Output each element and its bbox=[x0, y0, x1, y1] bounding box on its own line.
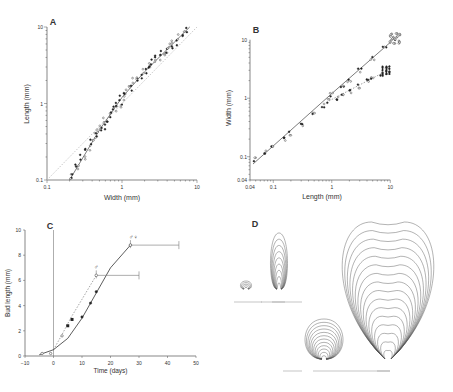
data-point bbox=[314, 112, 316, 114]
open-point bbox=[61, 335, 63, 337]
y-tick-label: 1 bbox=[244, 95, 247, 101]
male-curve bbox=[54, 275, 97, 349]
data-point bbox=[104, 124, 106, 126]
data-point bbox=[142, 68, 144, 70]
x-tick-label: 10 bbox=[79, 360, 85, 366]
data-point bbox=[182, 34, 184, 36]
data-point bbox=[323, 106, 325, 108]
open-point bbox=[95, 291, 97, 293]
x-tick-label: 30 bbox=[136, 360, 142, 366]
data-point bbox=[290, 134, 292, 136]
data-point bbox=[99, 125, 101, 127]
cluster-point bbox=[382, 67, 384, 69]
panel-d: D bbox=[234, 219, 434, 371]
data-point bbox=[272, 145, 274, 147]
data-point bbox=[132, 82, 134, 84]
y-tick-label: 10 bbox=[241, 37, 247, 43]
data-point bbox=[115, 102, 117, 104]
data-point bbox=[312, 113, 314, 115]
sex-annotation: ♂ bbox=[94, 264, 99, 270]
data-point bbox=[95, 137, 97, 139]
y-tick-label: 8 bbox=[18, 252, 21, 258]
data-point bbox=[148, 65, 150, 67]
data-point bbox=[337, 96, 339, 98]
data-point bbox=[136, 78, 138, 80]
x-tick-label: 10 bbox=[194, 184, 200, 190]
large-front-contour bbox=[358, 273, 418, 359]
data-point bbox=[185, 27, 187, 29]
x-tick-label: 20 bbox=[108, 360, 114, 366]
data-point bbox=[90, 143, 92, 145]
y-axis-label: Bud length (mm) bbox=[4, 269, 12, 317]
cluster-point bbox=[386, 69, 388, 71]
x-tick-label: 0.1 bbox=[44, 184, 51, 190]
panel-b: 0.040.11100.040.1110Length (mm)Width (mm… bbox=[225, 25, 401, 201]
cluster-point bbox=[393, 42, 395, 44]
x-tick-label: 40 bbox=[165, 360, 171, 366]
data-point bbox=[119, 95, 121, 97]
data-point bbox=[143, 72, 145, 74]
small-side-contour bbox=[244, 287, 248, 289]
data-point bbox=[154, 61, 156, 63]
cluster-point bbox=[388, 73, 390, 75]
x-tick-label: 10 bbox=[387, 184, 393, 190]
x-axis-label: Time (days) bbox=[93, 367, 127, 375]
panel-c: −10010203040500246810Time (days)Bud leng… bbox=[4, 221, 199, 375]
data-point bbox=[382, 46, 384, 48]
data-point bbox=[359, 71, 361, 73]
x-tick-label: 0.1 bbox=[270, 184, 277, 190]
data-point bbox=[159, 59, 161, 61]
small-side-contour bbox=[240, 281, 251, 289]
data-point bbox=[80, 159, 82, 161]
data-point bbox=[102, 117, 104, 119]
data-point bbox=[89, 149, 91, 151]
data-point bbox=[288, 131, 290, 133]
data-point bbox=[329, 92, 331, 94]
y-tick-label: 1 bbox=[40, 101, 43, 107]
large-front-contour bbox=[372, 316, 405, 359]
data-point bbox=[113, 106, 115, 108]
y-tick-label: 4 bbox=[18, 303, 21, 309]
cluster-point bbox=[394, 39, 396, 41]
data-point bbox=[84, 158, 86, 160]
data-point bbox=[74, 164, 76, 166]
data-point bbox=[107, 121, 109, 123]
large-front-contour bbox=[369, 308, 407, 359]
endpoint bbox=[95, 274, 98, 277]
data-point bbox=[75, 166, 77, 168]
y-tick-label: 6 bbox=[18, 277, 21, 283]
data-point bbox=[115, 110, 117, 112]
data-point bbox=[350, 92, 352, 94]
y-axis-label: Width (mm) bbox=[225, 90, 233, 126]
data-point bbox=[366, 79, 368, 81]
data-point bbox=[103, 121, 105, 123]
data-point bbox=[342, 85, 344, 87]
data-point bbox=[264, 153, 266, 155]
data-point bbox=[99, 128, 101, 130]
data-point bbox=[165, 52, 167, 54]
x-tick-label: 1 bbox=[330, 184, 333, 190]
figure-canvas: 0.11100.1110Width (mm)Length (mm)A 0.040… bbox=[0, 0, 453, 392]
data-point bbox=[370, 78, 372, 80]
y-axis-label: Length (mm) bbox=[23, 84, 31, 124]
data-point bbox=[148, 63, 150, 65]
data-point bbox=[115, 105, 117, 107]
small-front-contour bbox=[277, 283, 281, 289]
large-front-contour bbox=[366, 299, 410, 359]
data-point bbox=[93, 139, 95, 141]
data-point bbox=[368, 81, 370, 83]
data-point bbox=[141, 77, 143, 79]
filled-point bbox=[71, 318, 74, 321]
data-point bbox=[154, 55, 156, 57]
cluster-point bbox=[397, 35, 399, 37]
y-tick-label: 0.1 bbox=[36, 177, 43, 183]
data-point bbox=[125, 89, 127, 91]
data-point bbox=[151, 59, 153, 61]
x-axis-label: Width (mm) bbox=[104, 194, 140, 202]
mf-curve bbox=[39, 245, 130, 355]
filled-point bbox=[66, 324, 69, 327]
cluster-point bbox=[388, 66, 390, 68]
data-point bbox=[326, 102, 328, 104]
x-tick-label: 50 bbox=[193, 360, 199, 366]
data-point bbox=[96, 131, 98, 133]
